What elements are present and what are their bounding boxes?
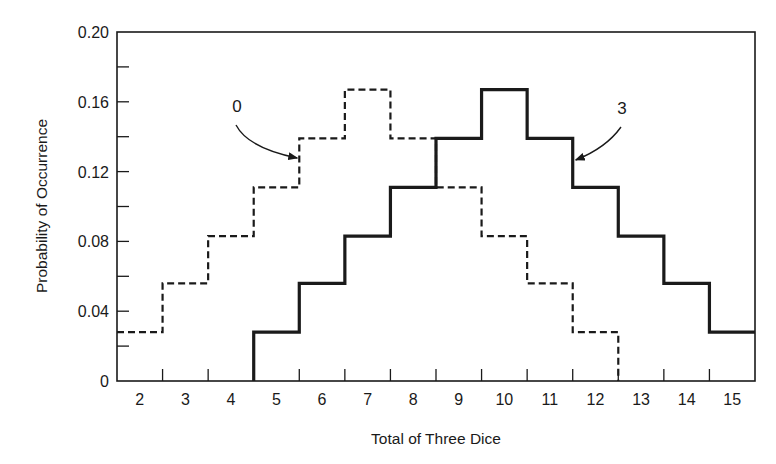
y-axis-title: Probability of Occurrence	[33, 119, 50, 293]
x-tick-label: 6	[318, 391, 327, 408]
step-chart: 00.040.080.120.160.20 234567891011121314…	[0, 0, 776, 464]
x-tick-label: 4	[226, 391, 235, 408]
x-tick-label: 10	[495, 391, 513, 408]
y-tick-label: 0.12	[78, 164, 109, 181]
plot-frame	[117, 32, 755, 381]
annotation-label-0: 0	[232, 97, 241, 116]
x-tick-label: 14	[678, 391, 696, 408]
x-tick-label: 7	[363, 391, 372, 408]
x-tick-label: 12	[587, 391, 605, 408]
x-axis: 23456789101112131415	[135, 369, 741, 408]
annotations: 03	[232, 97, 626, 160]
series-layer	[117, 90, 755, 381]
y-tick-label: 0	[100, 373, 109, 390]
annotation-arrow-3	[576, 127, 621, 160]
x-tick-label: 8	[409, 391, 418, 408]
x-axis-title: Total of Three Dice	[371, 430, 501, 447]
y-axis: 00.040.080.120.160.20	[78, 24, 129, 390]
x-tick-label: 5	[272, 391, 281, 408]
x-tick-label: 11	[542, 391, 559, 408]
plot-border	[117, 32, 755, 381]
annotation-arrow-0	[236, 125, 297, 158]
x-tick-label: 3	[181, 391, 190, 408]
annotation-label-3: 3	[617, 99, 626, 118]
y-tick-label: 0.20	[78, 24, 109, 41]
x-tick-label: 15	[723, 391, 741, 408]
y-tick-label: 0.08	[78, 233, 109, 250]
y-tick-label: 0.04	[78, 303, 109, 320]
x-tick-label: 9	[454, 391, 463, 408]
x-tick-label: 2	[135, 391, 144, 408]
x-tick-label: 13	[632, 391, 650, 408]
y-tick-label: 0.16	[78, 94, 109, 111]
